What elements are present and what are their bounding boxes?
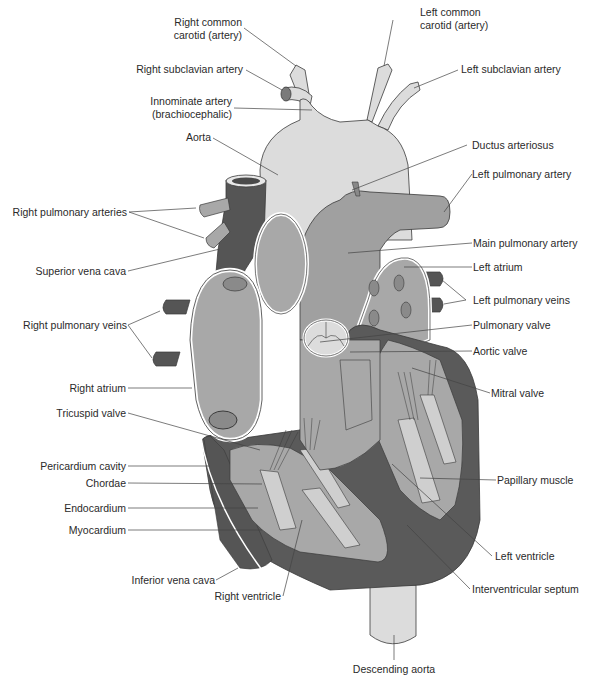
label-left-pulmonary-veins: Left pulmonary veins	[473, 294, 570, 307]
right-atrium-shape	[190, 270, 262, 440]
label-right-common-carotid: Right common carotid (artery)	[150, 16, 242, 42]
label-left-ventricle: Left ventricle	[495, 550, 555, 563]
label-right-ventricle: Right ventricle	[180, 590, 281, 603]
label-myocardium: Myocardium	[0, 524, 126, 537]
label-pericardium-cavity: Pericardium cavity	[0, 460, 126, 473]
label-pulmonary-valve: Pulmonary valve	[473, 319, 551, 332]
label-line: carotid (artery)	[150, 29, 242, 42]
label-tricuspid-valve: Tricuspid valve	[0, 407, 126, 420]
label-right-atrium: Right atrium	[0, 382, 126, 395]
label-main-pulmonary-artery: Main pulmonary artery	[473, 237, 577, 250]
heart-illustration	[0, 0, 590, 681]
label-left-pulmonary-artery: Left pulmonary artery	[472, 168, 571, 181]
label-left-subclavian-artery: Left subclavian artery	[461, 63, 561, 76]
label-line: carotid (artery)	[420, 19, 488, 32]
label-interventricular-septum: Interventricular septum	[472, 583, 579, 596]
label-line: Innominate artery	[130, 95, 232, 108]
figure-caption	[150, 668, 440, 681]
label-superior-vena-cava: Superior vena cava	[0, 265, 126, 278]
label-endocardium: Endocardium	[0, 502, 126, 515]
label-mitral-valve: Mitral valve	[491, 387, 544, 400]
label-right-pulmonary-veins: Right pulmonary veins	[0, 319, 127, 332]
label-ductus-arteriosus: Ductus arteriosus	[472, 139, 554, 152]
label-line: (brachiocephalic)	[130, 108, 232, 121]
outflow-tract-shape	[300, 340, 380, 470]
label-right-subclavian-artery: Right subclavian artery	[100, 63, 243, 76]
label-innominate-artery: Innominate artery (brachiocephalic)	[130, 95, 232, 121]
right-pulmonary-veins-shape	[153, 300, 190, 366]
label-chordae: Chordae	[0, 477, 126, 490]
label-right-pulmonary-arteries: Right pulmonary arteries	[0, 206, 127, 219]
aortic-root-chamber-shape	[255, 214, 307, 314]
label-papillary-muscle: Papillary muscle	[497, 474, 573, 487]
label-left-common-carotid: Left common carotid (artery)	[420, 6, 488, 32]
label-line: Right common	[150, 16, 242, 29]
label-line: Left common	[420, 6, 488, 19]
heart-diagram: Right common carotid (artery) Right subc…	[0, 0, 590, 681]
label-inferior-vena-cava: Inferior vena cava	[100, 574, 215, 587]
descending-aorta-shape	[370, 585, 416, 644]
label-aortic-valve: Aortic valve	[473, 345, 527, 358]
pulmonary-valve-shape	[304, 320, 348, 356]
label-aorta: Aorta	[160, 131, 211, 144]
label-left-atrium: Left atrium	[473, 261, 523, 274]
